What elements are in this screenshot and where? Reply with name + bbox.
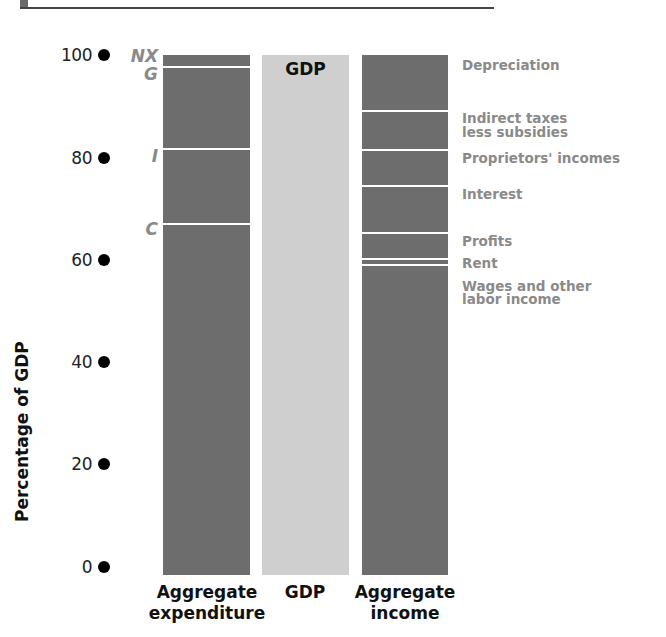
bar-aggregate-expenditure [163,55,250,575]
x-label-aggregate-expenditure: Aggregate expenditure [146,582,268,624]
label-profits: Profits [462,234,512,248]
tick-dot-icon [98,152,110,164]
bar-aggregate-income [362,55,448,575]
tick-dot-icon [98,49,110,61]
label-rent: Rent [462,256,498,270]
separator-g-i [163,148,250,150]
separator-profits [362,258,448,260]
tick-dot-icon [98,356,110,368]
y-tick-60: 60 [40,250,110,270]
y-tick-80: 80 [40,148,110,168]
label-i: I [110,146,158,166]
y-tick-0: 0 [40,557,110,577]
separator-interest [362,232,448,234]
top-rule [20,0,494,9]
label-nx: NX [110,46,158,66]
y-tick-40: 40 [40,352,110,372]
segment-income [362,55,448,575]
label-g: G [110,64,158,84]
x-label-aggregate-income: Aggregate income [346,582,464,624]
y-axis-label: Percentage of GDP [12,341,32,522]
label-wages-2: labor income [462,292,561,306]
separator-i-c [163,223,250,225]
tick-dot-icon [98,561,110,573]
label-c: C [110,219,158,239]
bar-gdp: GDP [262,55,349,575]
y-tick-100: 100 [40,45,110,65]
separator-nx-g [163,66,250,68]
tick-dot-icon [98,254,110,266]
separator-proprietors [362,185,448,187]
separator-indirect-taxes [362,149,448,151]
top-tab-marker [20,0,28,7]
label-depreciation: Depreciation [462,58,560,72]
y-tick-20: 20 [40,454,110,474]
tick-dot-icon [98,458,110,470]
label-indirect-taxes-2: less subsidies [462,125,568,139]
x-label-gdp: GDP [270,582,340,603]
label-interest: Interest [462,187,523,201]
label-indirect-taxes-1: Indirect taxes [462,111,567,125]
separator-rent [362,264,448,266]
segment-c [163,55,250,575]
label-proprietors: Proprietors' incomes [462,151,620,165]
separator-depreciation [362,110,448,112]
gdp-inside-label: GDP [262,59,349,79]
